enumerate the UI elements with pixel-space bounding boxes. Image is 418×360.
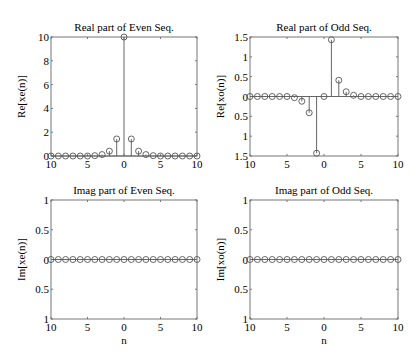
x-tick-label: 5	[358, 321, 364, 333]
x-tick-label: 0	[321, 158, 327, 170]
y-tick-label: 6	[44, 79, 50, 91]
x-tick-label: 5	[158, 158, 164, 170]
x-axis-label: n	[321, 334, 327, 346]
x-axis-label: n	[121, 334, 127, 346]
y-tick-label: 1.5	[234, 31, 248, 43]
x-tick-label: 10	[192, 321, 204, 333]
x-tick-label: 10	[192, 158, 204, 170]
x-tick-label: 5	[85, 158, 91, 170]
y-tick-label: 0	[243, 254, 249, 266]
subplot-2: Real part of Odd Seq.10505101.510.500.51…	[214, 21, 404, 170]
y-tick-label: 0.5	[234, 71, 248, 83]
x-tick-label: 5	[284, 158, 290, 170]
y-axis-label: Re[xo(n)]	[214, 75, 227, 118]
y-tick-label: 0.5	[35, 224, 49, 236]
y-tick-label: 1	[243, 51, 249, 63]
x-tick-label: 10	[393, 158, 405, 170]
y-tick-label: 8	[44, 55, 50, 67]
y-tick-label: 0	[243, 91, 249, 103]
y-axis-label: Im[xo(n)]	[214, 238, 227, 281]
y-tick-label: 1	[44, 194, 50, 206]
y-tick-label: 1	[243, 313, 249, 325]
y-tick-label: 0	[44, 150, 50, 162]
y-tick-label: 10	[38, 31, 50, 43]
y-tick-label: 0.5	[234, 224, 248, 236]
y-tick-label: 1	[44, 313, 50, 325]
subplot-3: Imag part of Even Seq.105051010.500.51Im…	[15, 184, 203, 346]
plot-title: Real part of Odd Seq.	[276, 21, 372, 33]
y-tick-label: 0	[44, 254, 50, 266]
x-tick-label: 5	[158, 321, 164, 333]
plot-title: Imag part of Even Seq.	[73, 184, 175, 196]
figure: Real part of Even Seq.10505100246810Re[x…	[0, 0, 418, 360]
y-tick-label: 2	[44, 126, 50, 138]
plot-title: Real part of Even Seq.	[74, 21, 174, 33]
plot-title: Imag part of Odd Seq.	[275, 184, 373, 196]
subplot-4: Imag part of Odd Seq.105051010.500.51Im[…	[214, 184, 404, 346]
x-tick-label: 5	[284, 321, 290, 333]
x-tick-label: 0	[121, 321, 127, 333]
y-tick-label: 0.5	[234, 110, 248, 122]
y-tick-label: 1	[243, 130, 249, 142]
y-tick-label: 1.5	[234, 150, 248, 162]
subplot-1: Real part of Even Seq.10505100246810Re[x…	[15, 21, 203, 170]
y-tick-label: 0.5	[35, 283, 49, 295]
x-tick-label: 0	[321, 321, 327, 333]
y-axis-label: Re[xe(n)]	[15, 75, 28, 118]
y-tick-label: 4	[44, 102, 50, 114]
x-tick-label: 10	[393, 321, 405, 333]
y-axis-label: Im[xe(n)]	[15, 238, 28, 281]
x-tick-label: 0	[121, 158, 127, 170]
y-tick-label: 0.5	[234, 283, 248, 295]
x-tick-label: 5	[358, 158, 364, 170]
y-tick-label: 1	[243, 194, 249, 206]
x-tick-label: 5	[85, 321, 91, 333]
